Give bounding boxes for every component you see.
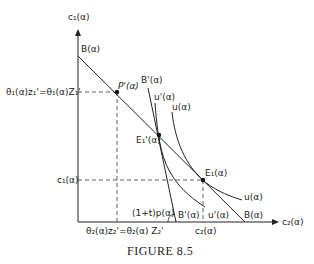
x-tick-left: θ₂(α)z₂'=θ₂(α) Z₂' <box>86 226 164 236</box>
budget-line-label: B(α) <box>81 44 100 54</box>
y-axis-label: c₁(α) <box>68 12 90 22</box>
budget-line-end-label: B(α) <box>244 210 263 220</box>
point-e1-prime-label: E₁'(α) <box>136 135 161 145</box>
budget-prime-label: B'(α) <box>141 75 163 85</box>
indiff-prime-label: u'(α) <box>154 92 175 102</box>
x-axis-label: c₂(α) <box>282 217 304 227</box>
x-tick-right: c₂(α) <box>195 226 217 236</box>
angle-label: (1+t)p(α) <box>132 208 175 218</box>
figure-diagram: c₁(α) c₂(α) B(α) B(α) B'(α) B'(α) u'(α) … <box>0 0 314 264</box>
point-e1-label: E₁(α) <box>205 168 227 178</box>
y-tick-lower: c₁(α) <box>57 175 79 185</box>
figure-caption: FIGURE 8.5 <box>127 244 193 258</box>
y-tick-upper: θ₁(α)z₁'=θ₁(α)Z₁' <box>6 87 81 97</box>
indifference-curve-u-prime <box>155 103 205 207</box>
indiff-end-label: u(α) <box>244 192 263 202</box>
point-e1 <box>201 178 205 182</box>
point-p-prime-label: P'(α) <box>118 81 139 91</box>
indiff-prime-end-label: u'(α) <box>208 210 229 220</box>
indiff-label: u(α) <box>172 102 191 112</box>
budget-prime-end-label: B'(α) <box>178 210 200 220</box>
indifference-curve-u <box>172 112 242 200</box>
